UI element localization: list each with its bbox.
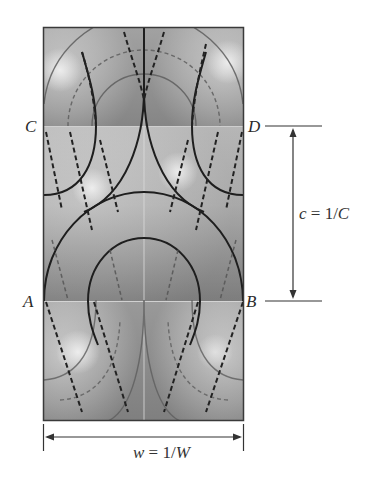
diagram-figure: C D A B c = 1/C w = 1/W [0,0,382,482]
unit-cell-plot [0,0,382,482]
width-eq: = 1/ [144,443,175,462]
height-var: c [299,204,307,223]
corner-label-a: A [23,293,33,310]
height-eq: = 1/ [307,204,338,223]
width-var: w [133,443,144,462]
corner-label-b: B [246,293,256,310]
width-dimension-label: w = 1/W [133,444,190,461]
height-cap: C [338,204,349,223]
width-cap: W [176,443,190,462]
corner-label-d: D [248,118,260,135]
corner-label-c: C [25,118,36,135]
height-dimension-label: c = 1/C [299,205,349,222]
shaded-field [38,14,250,421]
